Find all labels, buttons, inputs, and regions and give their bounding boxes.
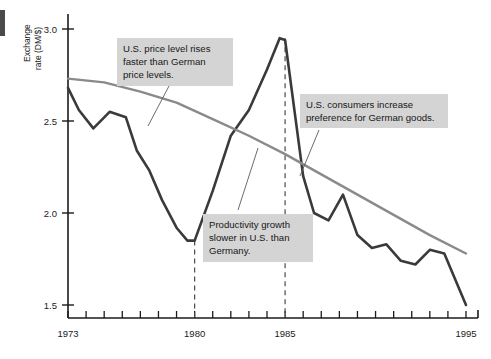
y-axis-title: Exchange rate (DM/$) [22,24,43,70]
annotation-productivity: Productivity growth slower in U.S. than … [203,214,313,262]
y-axis-tick-labels: 1.52.02.53.0 [44,24,57,311]
y-tick-label: 3.0 [44,24,57,35]
annotation-consumers: U.S. consumers increase preference for G… [300,94,448,128]
y-axis-title-line1: Exchange [22,24,32,62]
leader-line-annotation-price-level [148,86,169,126]
y-tick-label: 1.5 [44,300,57,311]
x-tick-label: 1985 [275,328,296,339]
chart-canvas: Exchange rate (DM/$) 1.52.02.53.0 197319… [0,0,491,359]
x-tick-label: 1995 [455,328,476,339]
y-axis-title-line2: rate (DM/$) [33,27,43,70]
annotation-price-level: U.S. price level rises faster than Germa… [117,38,233,86]
x-axis-tick-labels: 1973198019851995 [57,328,476,339]
y-tick-label: 2.5 [44,116,57,127]
leader-line-annotation-productivity [238,148,258,210]
x-tick-label: 1973 [57,328,78,339]
y-tick-label: 2.0 [44,208,57,219]
x-axis-ticks [68,311,466,318]
x-tick-label: 1980 [184,328,205,339]
exchange-rate-chart: Exchange rate (DM/$) 1.52.02.53.0 197319… [0,0,491,359]
